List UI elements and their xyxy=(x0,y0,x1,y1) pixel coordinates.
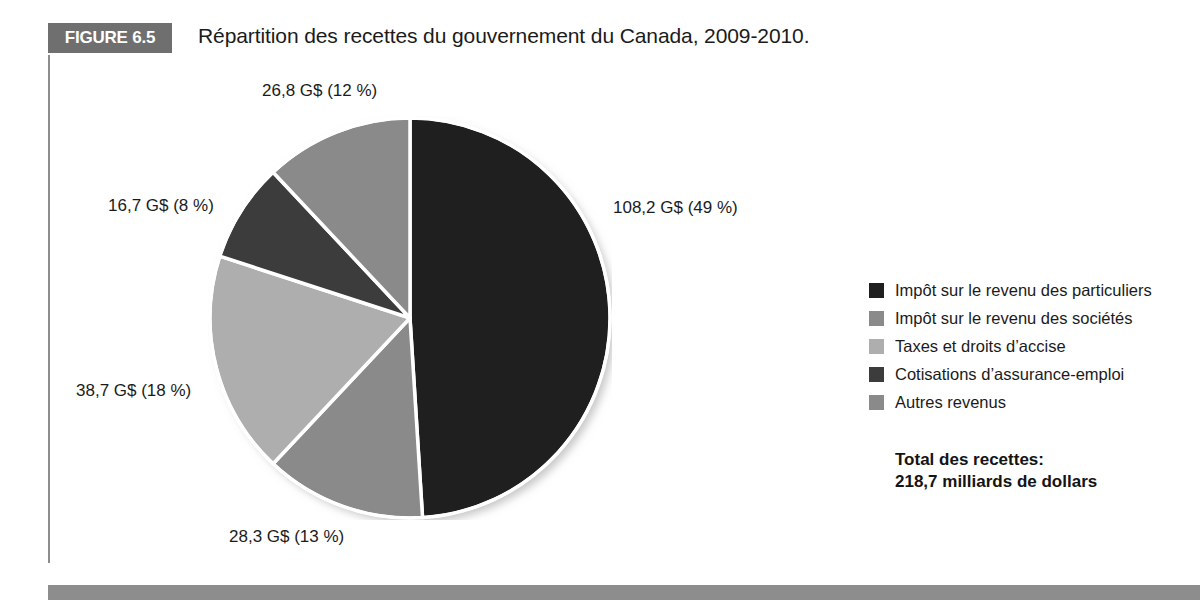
legend-swatch-icon xyxy=(869,395,884,410)
pie-chart-svg xyxy=(208,116,612,520)
figure-number-label: FIGURE 6.5 xyxy=(65,28,156,48)
legend-item-other-revenue: Autres revenus xyxy=(869,388,1152,416)
pie-slice-personal-income-tax xyxy=(410,118,610,518)
pie-data-label-other-revenue: 26,8 G$ (12 %) xyxy=(262,81,377,101)
pie-data-label-personal-income-tax: 108,2 G$ (49 %) xyxy=(613,198,738,218)
legend-swatch-icon xyxy=(869,311,884,326)
legend-swatch-icon xyxy=(869,367,884,382)
pie-data-label-employment-insurance: 16,7 G$ (8 %) xyxy=(108,196,214,216)
legend-item-label: Autres revenus xyxy=(895,394,1006,411)
legend-item-corporate-income-tax: Impôt sur le revenu des sociétés xyxy=(869,304,1152,332)
legend-item-excise-taxes: Taxes et droits d’accise xyxy=(869,332,1152,360)
left-vertical-rule xyxy=(48,55,50,563)
total-revenue-value: 218,7 milliards de dollars xyxy=(895,471,1097,493)
legend-item-label: Impôt sur le revenu des sociétés xyxy=(895,310,1133,327)
legend-swatch-icon xyxy=(869,283,884,298)
figure-number-badge: FIGURE 6.5 xyxy=(48,23,172,53)
pie-chart xyxy=(208,116,612,520)
pie-data-label-corporate-income-tax: 28,3 G$ (13 %) xyxy=(229,527,344,547)
bottom-horizontal-bar xyxy=(48,585,1200,600)
legend: Impôt sur le revenu des particuliers Imp… xyxy=(869,276,1152,416)
total-revenue-caption: Total des recettes: xyxy=(895,449,1097,471)
legend-swatch-icon xyxy=(869,339,884,354)
legend-item-employment-insurance: Cotisations d’assurance-emploi xyxy=(869,360,1152,388)
legend-item-label: Cotisations d’assurance-emploi xyxy=(895,366,1124,383)
pie-slice-group xyxy=(210,118,610,518)
legend-item-personal-income-tax: Impôt sur le revenu des particuliers xyxy=(869,276,1152,304)
figure-title: Répartition des recettes du gouvernement… xyxy=(198,24,809,48)
pie-data-label-excise-taxes: 38,7 G$ (18 %) xyxy=(76,381,191,401)
figure-container: FIGURE 6.5 Répartition des recettes du g… xyxy=(0,0,1200,606)
legend-item-label: Impôt sur le revenu des particuliers xyxy=(895,282,1152,299)
legend-item-label: Taxes et droits d’accise xyxy=(895,338,1066,355)
total-revenue-block: Total des recettes: 218,7 milliards de d… xyxy=(895,449,1097,494)
